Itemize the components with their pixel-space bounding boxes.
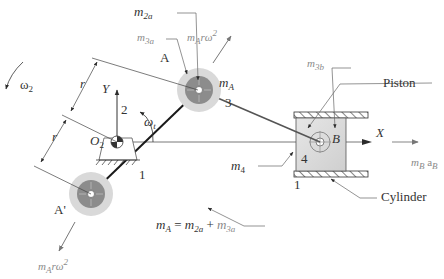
label-omega-t: ωt	[144, 114, 156, 131]
label-link-3: 3	[225, 95, 232, 110]
label-x-axis: X	[375, 125, 385, 140]
label-r-lower: r	[52, 129, 58, 144]
radius-dimensions	[34, 58, 198, 194]
slider-crank-diagram: ω2 m2a m3a A mA mArω2 Y r r 2 ωt O2 1 3 …	[0, 0, 444, 279]
labels: ω2 m2a m3a A mA mArω2 Y r r 2 ωt O2 1 3 …	[20, 4, 438, 275]
label-point-a-prime: A'	[54, 202, 66, 217]
label-ma: mA	[219, 75, 234, 92]
label-piston: Piston	[383, 75, 416, 90]
label-cylinder: Cylinder	[381, 189, 427, 204]
label-ground-1-left: 1	[139, 167, 146, 182]
label-m3a: m3a	[137, 31, 154, 46]
label-y-axis: Y	[102, 81, 111, 96]
label-force-a: mArω2	[187, 28, 218, 46]
label-link-2: 2	[121, 102, 128, 117]
label-link-4: 4	[301, 151, 308, 166]
label-force-a-prime: mArω2	[38, 257, 69, 275]
label-m2a: m2a	[134, 4, 153, 21]
label-r-upper: r	[80, 76, 86, 91]
mass-a	[177, 68, 221, 112]
truncated-caption	[222, 272, 418, 279]
label-point-b: B	[332, 131, 340, 146]
label-omega2: ω2	[20, 77, 33, 94]
label-point-a: A	[160, 50, 170, 65]
label-m4: m4	[231, 158, 245, 175]
force-arrow-a-prime	[59, 222, 75, 251]
label-m3b: m3b	[307, 57, 324, 72]
mass-equation: mA = m2a + m3a	[156, 217, 236, 234]
label-force-b: mB aB	[411, 156, 438, 171]
label-ground-1-right: 1	[294, 177, 301, 192]
label-o2: O2	[90, 133, 104, 150]
force-arrow-a	[213, 36, 231, 63]
